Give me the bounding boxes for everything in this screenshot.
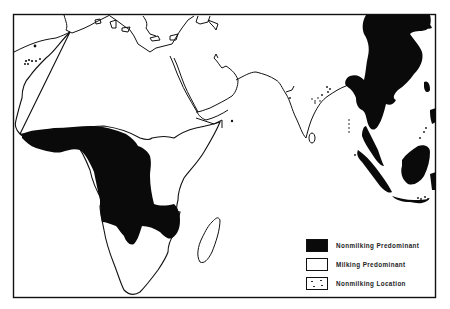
madagascar [198,218,220,263]
legend-label: Nonmilking Location [336,280,406,287]
south-asia-coastline [208,20,346,143]
white-swatch-icon [306,258,328,271]
atlantic-islands [24,45,41,65]
legend-item-nonmilking-location: Nonmilking Location [306,274,436,292]
legend-item-milking-predominant: Milking Predominant [306,255,436,273]
map-legend: Nonmilking Predominant Milking Predomina… [306,236,436,293]
dotted-swatch-icon [306,277,328,290]
nonmilking-location-dots [231,86,356,156]
europe-coastline [14,15,210,52]
black-swatch-icon [306,239,328,252]
legend-label: Nonmilking Predominant [336,242,419,249]
legend-item-nonmilking-predominant: Nonmilking Predominant [306,236,436,254]
arabia-coastline [170,54,238,128]
asia-nonmilking-region [345,15,436,203]
legend-label: Milking Predominant [336,261,406,268]
